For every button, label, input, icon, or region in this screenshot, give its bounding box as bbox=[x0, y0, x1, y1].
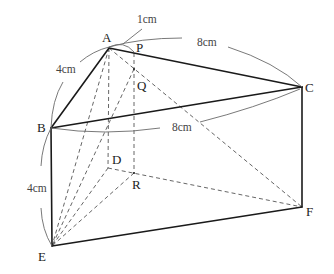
measure-AC: 8cm bbox=[197, 36, 217, 48]
arc-BC-right bbox=[200, 89, 300, 122]
measure-AB: 4cm bbox=[56, 63, 76, 75]
visible-edges bbox=[51, 48, 302, 246]
hidden-edges bbox=[52, 48, 302, 246]
label-C: C bbox=[305, 80, 314, 95]
measurement-labels: 4cm 1cm 8cm 8cm 4cm bbox=[27, 13, 217, 194]
point-R-dot bbox=[133, 172, 135, 174]
label-Q: Q bbox=[137, 78, 147, 93]
edge-AD bbox=[108, 48, 109, 168]
prism-diagram: A P Q B C D R E F 4cm 1cm 8cm 8cm 4cm bbox=[0, 0, 334, 274]
measure-BC: 8cm bbox=[172, 121, 192, 133]
edge-BE bbox=[51, 128, 52, 246]
label-B: B bbox=[37, 120, 46, 135]
arc-AB-lower bbox=[51, 82, 63, 128]
arc-AC-left bbox=[109, 38, 182, 47]
point-Q-dot bbox=[133, 68, 135, 70]
label-R: R bbox=[132, 177, 141, 192]
measure-BE: 4cm bbox=[27, 182, 47, 194]
arc-BE-lower bbox=[41, 208, 52, 246]
arc-BC-left bbox=[51, 128, 160, 132]
label-F: F bbox=[306, 204, 313, 219]
segment-QE bbox=[52, 69, 134, 246]
edge-DE bbox=[52, 168, 108, 246]
label-D: D bbox=[112, 152, 121, 167]
point-labels: A P Q B C D R E F bbox=[37, 30, 314, 264]
measure-AP: 1cm bbox=[137, 13, 157, 25]
arc-AC-right bbox=[228, 47, 302, 87]
label-A: A bbox=[102, 30, 112, 45]
label-E: E bbox=[38, 249, 46, 264]
segment-AE bbox=[52, 48, 109, 246]
label-P: P bbox=[136, 40, 143, 55]
